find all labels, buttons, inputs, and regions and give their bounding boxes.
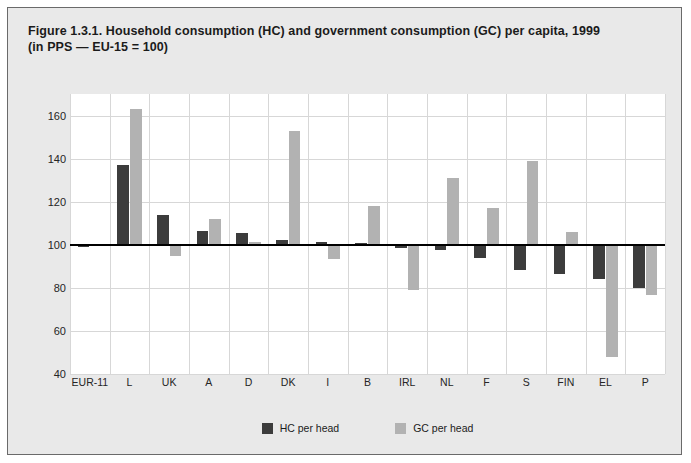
x-axis-labels: EUR-11LUKADDKIBIRLNLFSFINELP xyxy=(70,376,665,394)
chart-legend: HC per headGC per head xyxy=(70,418,665,438)
y-tick-label-40: 40 xyxy=(26,368,66,380)
category-separator xyxy=(110,94,111,374)
x-tick-label-dk: DK xyxy=(281,376,296,388)
bar-a-hc xyxy=(197,231,209,245)
gridline-160 xyxy=(70,116,665,117)
plot-area xyxy=(70,94,665,374)
bar-dk-gc xyxy=(289,131,301,245)
x-tick-label-l: L xyxy=(127,376,133,388)
baseline-100 xyxy=(70,244,665,246)
category-separator xyxy=(387,94,388,374)
x-tick-label-irl: IRL xyxy=(399,376,415,388)
bar-a-gc xyxy=(209,219,221,245)
category-separator xyxy=(586,94,587,374)
bar-b-gc xyxy=(368,206,380,245)
x-tick-label-d: D xyxy=(245,376,253,388)
category-separator xyxy=(268,94,269,374)
legend-label: HC per head xyxy=(280,422,340,434)
y-tick-label-160: 160 xyxy=(26,110,66,122)
gridline-140 xyxy=(70,159,665,160)
x-tick-label-el: EL xyxy=(599,376,612,388)
x-tick-label-s: S xyxy=(523,376,530,388)
bar-el-hc xyxy=(593,245,605,279)
category-separator xyxy=(546,94,547,374)
x-tick-label-uk: UK xyxy=(162,376,177,388)
bar-uk-hc xyxy=(157,215,169,245)
x-tick-label-nl: NL xyxy=(440,376,453,388)
figure-frame: Figure 1.3.1. Household consumption (HC)… xyxy=(7,7,682,455)
x-tick-label-p: P xyxy=(642,376,649,388)
category-separator xyxy=(427,94,428,374)
figure-title: Figure 1.3.1. Household consumption (HC)… xyxy=(28,23,658,55)
category-separator xyxy=(70,94,71,374)
legend-label: GC per head xyxy=(413,422,473,434)
gridline-120 xyxy=(70,202,665,203)
y-axis-labels: 406080100120140160 xyxy=(22,94,66,374)
figure-title-line-1: Figure 1.3.1. Household consumption (HC)… xyxy=(28,24,600,38)
gridline-80 xyxy=(70,288,665,289)
x-tick-label-a: A xyxy=(205,376,212,388)
bar-f-gc xyxy=(487,208,499,245)
gridline-60 xyxy=(70,331,665,332)
category-separator xyxy=(229,94,230,374)
bar-s-gc xyxy=(527,161,539,245)
x-tick-label-eur-11: EUR-11 xyxy=(72,376,109,388)
bar-el-gc xyxy=(606,245,618,357)
legend-swatch-icon xyxy=(262,423,273,434)
category-separator xyxy=(467,94,468,374)
category-separator xyxy=(506,94,507,374)
bar-nl-gc xyxy=(447,178,459,245)
bar-irl-gc xyxy=(408,245,420,290)
legend-swatch-icon xyxy=(395,423,406,434)
y-tick-label-100: 100 xyxy=(26,239,66,251)
bar-s-hc xyxy=(514,245,526,270)
x-tick-label-fin: FIN xyxy=(557,376,574,388)
x-tick-label-i: I xyxy=(326,376,329,388)
category-separator xyxy=(308,94,309,374)
bar-l-hc xyxy=(117,165,129,245)
bar-p-gc xyxy=(646,245,658,296)
bar-uk-gc xyxy=(170,245,182,256)
category-separator xyxy=(149,94,150,374)
bar-fin-hc xyxy=(554,245,566,274)
bar-f-hc xyxy=(474,245,486,258)
x-tick-label-b: B xyxy=(364,376,371,388)
bar-p-hc xyxy=(633,245,645,288)
x-tick-label-f: F xyxy=(483,376,489,388)
y-tick-label-120: 120 xyxy=(26,196,66,208)
category-separator xyxy=(665,94,666,374)
category-separator xyxy=(189,94,190,374)
y-tick-label-140: 140 xyxy=(26,153,66,165)
legend-entry-hc: HC per head xyxy=(262,422,340,434)
y-tick-label-80: 80 xyxy=(26,282,66,294)
category-separator xyxy=(625,94,626,374)
legend-entry-gc: GC per head xyxy=(395,422,473,434)
category-separator xyxy=(348,94,349,374)
gridline-40 xyxy=(70,374,665,375)
bar-l-gc xyxy=(130,109,142,245)
y-tick-label-60: 60 xyxy=(26,325,66,337)
figure-title-line-2: (in PPS — EU-15 = 100) xyxy=(28,39,658,55)
bar-i-gc xyxy=(328,245,340,259)
